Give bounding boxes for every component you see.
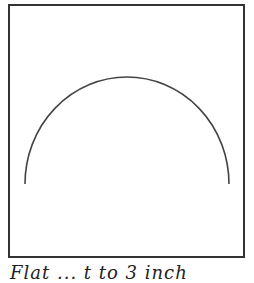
figure-caption: Flat ... t to 3 inch xyxy=(10,263,254,283)
semicircle-arc xyxy=(25,77,229,184)
